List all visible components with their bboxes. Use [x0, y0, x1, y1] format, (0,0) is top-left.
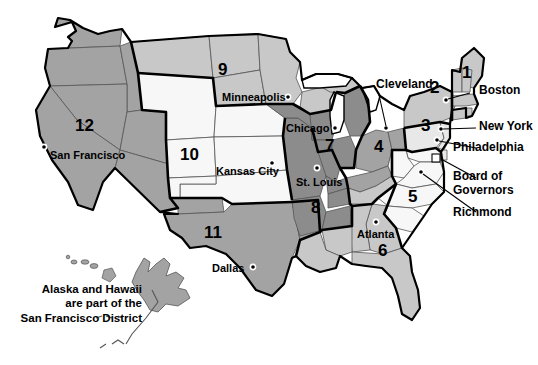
district-number-11: 11 — [204, 223, 222, 242]
district-number-8: 8 — [311, 198, 320, 217]
district-number-7: 7 — [325, 136, 334, 155]
district-number-12: 12 — [75, 116, 94, 135]
alaska-hawaii-note: Alaska and Hawaii are part of the San Fr… — [10, 282, 142, 325]
city-label-minneapolis: Minneapolis — [222, 91, 286, 103]
district-number-4: 4 — [374, 137, 383, 156]
district-number-1: 1 — [462, 63, 471, 82]
note-line-3: San Francisco District — [10, 311, 142, 325]
district-number-3: 3 — [421, 116, 430, 135]
state-montana — [131, 36, 213, 78]
state-washington — [55, 18, 122, 48]
state-oregon — [45, 46, 127, 86]
city-dot-boston — [443, 97, 448, 102]
callout-label-philadelphia: Philadelphia — [453, 141, 524, 154]
city-label-atlanta: Atlanta — [357, 228, 394, 240]
callout-label-board-of: Board of — [453, 170, 502, 183]
district-number-9: 9 — [218, 60, 227, 79]
city-label-st-louis: St. Louis — [296, 176, 342, 188]
city-dot-dallas — [250, 264, 255, 269]
city-dot-philadelphia — [434, 137, 439, 142]
city-label-dallas: Dallas — [212, 262, 244, 274]
callout-label-new-york: New York — [479, 120, 533, 133]
city-dot-atlanta — [373, 219, 378, 224]
state-texas — [164, 202, 300, 296]
district-number-6: 6 — [378, 241, 387, 260]
hawaii-islands — [66, 255, 116, 282]
note-line-2: are part of the — [10, 296, 142, 310]
state-new-mexico-south — [170, 198, 224, 214]
federal-reserve-districts-map: 1 2 3 4 5 6 7 8 9 10 11 12 Minneapolis C… — [0, 0, 538, 365]
city-label-chicago: Chicago — [286, 122, 329, 134]
callout-label-cleveland: Cleveland — [376, 78, 433, 91]
district-number-10: 10 — [180, 145, 199, 164]
city-dot-chicago — [332, 125, 337, 130]
city-dot-minneapolis — [285, 94, 290, 99]
city-dot-richmond — [418, 169, 423, 174]
note-line-1: Alaska and Hawaii — [10, 282, 142, 296]
callout-label-richmond: Richmond — [453, 206, 512, 219]
district-number-5: 5 — [408, 187, 417, 206]
callout-label-boston: Boston — [479, 84, 520, 97]
board-of-governors-marker — [432, 154, 440, 162]
city-dot-san-francisco — [41, 144, 46, 149]
city-dot-st-louis — [314, 165, 319, 170]
city-dot-new-york — [438, 126, 443, 131]
city-dot-cleveland — [383, 125, 388, 130]
callout-label-governors: Governors — [453, 184, 514, 197]
city-label-kansas-city: Kansas City — [216, 165, 279, 177]
city-label-san-francisco: San Francisco — [50, 149, 125, 161]
